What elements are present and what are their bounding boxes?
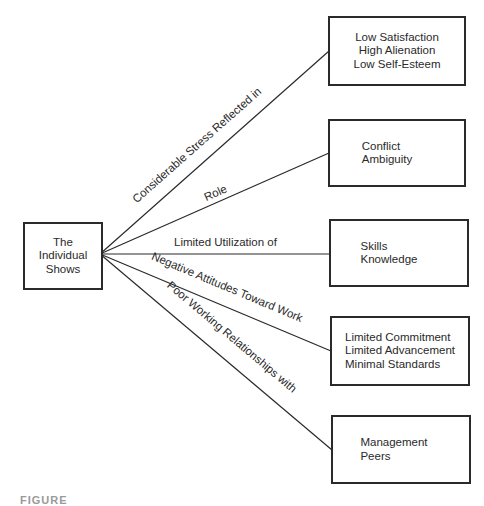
edge-label-utilization: Limited Utilization of — [174, 236, 277, 248]
edge-stress — [100, 51, 329, 254]
target-box-attitudes: Limited Commitment Limited Advancement M… — [330, 316, 470, 386]
target-label: Low Satisfaction High Alienation Low Sel… — [354, 31, 441, 72]
figure-caption: FIGURE — [20, 494, 68, 506]
source-label: The Individual Shows — [39, 236, 88, 277]
target-label: Conflict Ambiguity — [362, 140, 413, 167]
target-box-utilization: Skills Knowledge — [329, 219, 469, 287]
edge-attitudes — [100, 254, 331, 351]
target-label: Management Peers — [360, 436, 427, 463]
source-box: The Individual Shows — [23, 222, 103, 290]
target-box-relationships: Management Peers — [331, 415, 471, 484]
target-box-stress: Low Satisfaction High Alienation Low Sel… — [328, 16, 466, 86]
target-label: Skills Knowledge — [361, 240, 418, 267]
target-box-role: Conflict Ambiguity — [328, 119, 466, 187]
target-label: Limited Commitment Limited Advancement M… — [345, 331, 455, 372]
